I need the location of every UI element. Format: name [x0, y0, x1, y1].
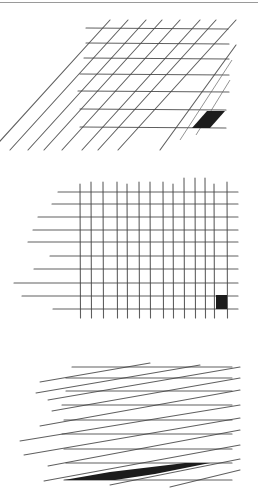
vertical-line	[80, 184, 81, 318]
horizontal-line	[86, 28, 228, 29]
grid-diagram	[0, 0, 258, 504]
horizontal-line	[80, 109, 226, 110]
vertical-line	[150, 182, 151, 318]
square-grid-panel	[14, 178, 238, 318]
vertical-line	[91, 182, 92, 318]
vertical-line	[139, 182, 140, 318]
vertical-line	[127, 184, 128, 318]
horizontal-line	[84, 58, 229, 59]
diagonal-line	[48, 430, 240, 466]
strongly-sheared-grid-panel	[20, 363, 240, 487]
diagonal-line	[10, 20, 128, 150]
horizontal-line	[80, 74, 229, 75]
vertical-line	[163, 182, 164, 318]
vertical-line	[184, 178, 185, 318]
horizontal-line	[78, 91, 229, 92]
vertical-line	[195, 178, 196, 318]
vertical-line	[173, 184, 174, 318]
vertical-line	[227, 182, 228, 318]
diagonal-line	[0, 20, 110, 150]
vertical-line	[205, 178, 206, 318]
diagonal-line	[28, 20, 146, 150]
diagonal-line	[40, 363, 150, 382]
diagonal-line	[62, 20, 180, 150]
diagonal-line	[170, 470, 240, 487]
shaded-square	[216, 295, 227, 309]
vertical-line	[214, 184, 215, 318]
diagonal-line	[160, 45, 236, 150]
vertical-line	[103, 182, 104, 318]
diagonal-line	[44, 20, 162, 150]
vertical-line	[117, 182, 118, 318]
diagonal-line	[118, 20, 236, 150]
shaded-sliver	[64, 463, 210, 480]
sheared-grid-panel	[0, 20, 236, 150]
diagonal-line	[82, 20, 200, 150]
